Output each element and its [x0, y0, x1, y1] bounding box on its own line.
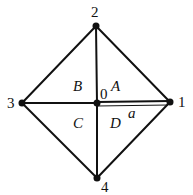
node-label-2: 2	[91, 5, 99, 20]
node-label-4: 4	[101, 180, 109, 195]
edge-0-1	[97, 101, 170, 102]
node-label-3: 3	[7, 96, 15, 111]
edge-3-4	[22, 103, 97, 178]
node-2	[93, 23, 100, 30]
node-label-0: 0	[100, 87, 108, 102]
diagram-canvas: 2 3 1 4 0 A B C D a	[0, 0, 193, 195]
region-label-b: B	[73, 79, 82, 94]
region-label-c: C	[73, 116, 83, 131]
graph-drawing	[0, 0, 193, 195]
region-label-a-upper: A	[111, 79, 120, 94]
region-label-d: D	[110, 116, 121, 131]
node-3	[19, 100, 26, 107]
edge-label-a: a	[128, 106, 136, 121]
node-label-1: 1	[178, 95, 186, 110]
edge-2-3	[22, 26, 96, 103]
node-4	[94, 175, 101, 182]
node-1	[167, 99, 174, 106]
edge-2-0	[96, 26, 97, 103]
